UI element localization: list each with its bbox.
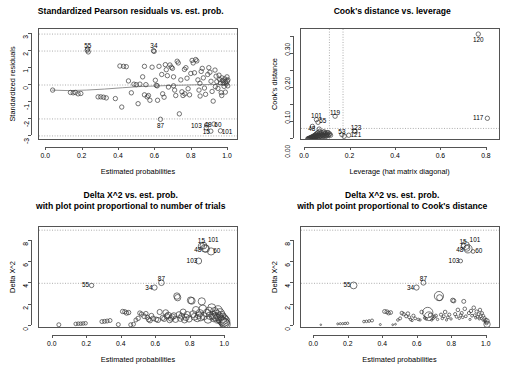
data-point (217, 73, 221, 77)
x-tick-label: 1.0 (473, 340, 499, 347)
panel-cooks-distance-leverage: Cook's distance vs. leverage120117101551… (262, 0, 523, 188)
x-tick-mark (224, 335, 225, 338)
panel-title-line: Delta X^2 vs. est. prob. (262, 190, 523, 201)
y-tick-label: -1 (23, 104, 30, 110)
y-axis-line (31, 33, 32, 135)
point-label: 87 (419, 275, 427, 282)
point-label: 101 (208, 236, 219, 243)
data-point (140, 75, 144, 79)
point-label: 34 (145, 284, 153, 291)
data-point (449, 318, 451, 320)
y-tick-label: 6 (23, 263, 30, 267)
data-point (478, 308, 481, 311)
x-tick-label: 0.6 (142, 340, 168, 347)
point-label: 103 (191, 122, 202, 129)
x-tick-label: 0.8 (473, 152, 499, 159)
data-point (455, 315, 458, 318)
data-point (150, 65, 154, 69)
x-tick-mark (440, 147, 441, 150)
diagnostic-plot-grid: Standardized Pearson residuals vs. est. … (0, 0, 523, 376)
data-point (362, 320, 365, 323)
data-point (341, 323, 343, 325)
data-point (209, 79, 213, 83)
panel-title-line: Delta X^2 vs. est. prob. (0, 190, 262, 201)
data-point (445, 319, 447, 321)
x-tick-label: 0.8 (438, 340, 464, 347)
y-axis-label: Delta X^2 (269, 261, 278, 293)
y-tick-label: 0 (23, 86, 30, 90)
loess-smoother (52, 84, 228, 90)
data-point (84, 321, 88, 325)
data-point (443, 310, 447, 314)
y-axis-label: Cook's distance (269, 58, 278, 110)
x-tick-label: 0.2 (337, 152, 363, 159)
y-tick-mark (290, 104, 293, 105)
x-tick-label: 0.0 (300, 340, 326, 347)
y-tick-mark (290, 138, 293, 139)
y-tick-mark (28, 325, 31, 326)
point-label: 117 (473, 114, 484, 121)
y-tick-label: 8 (284, 242, 291, 246)
point-label: 48 (308, 125, 316, 132)
point-label: 34 (150, 42, 158, 49)
panel-title-line: Cook's distance vs. leverage (262, 6, 523, 17)
data-point (57, 323, 61, 327)
x-tick-mark (350, 147, 351, 150)
data-point (195, 59, 199, 63)
point-label: 15 (203, 128, 211, 135)
data-point (79, 91, 83, 95)
x-tick-label: 0.4 (382, 152, 408, 159)
data-point (172, 88, 176, 92)
y-tick-label: 2 (23, 52, 30, 56)
y-tick-mark (290, 304, 293, 305)
x-axis-label: Estimated probabilities (38, 355, 238, 364)
plot-area: 553487103486015101 (38, 28, 238, 140)
data-point (458, 317, 460, 319)
point-label: 87 (157, 122, 165, 129)
data-point (186, 87, 190, 91)
y-tick-label: 0.00 (284, 145, 291, 158)
y-tick-label: 0 (23, 327, 30, 331)
y-tick-mark (290, 240, 293, 241)
y-tick-label: 0.10 (284, 111, 291, 124)
data-point (461, 316, 464, 319)
y-tick-mark (290, 325, 293, 326)
data-point (442, 315, 445, 318)
data-point (116, 323, 120, 327)
y-tick-label: 2 (23, 305, 30, 309)
x-tick-mark (155, 335, 156, 338)
y-tick-label: 8 (23, 242, 30, 246)
data-point (152, 285, 157, 290)
y-tick-mark (28, 304, 31, 305)
point-label: 53 (338, 128, 346, 135)
x-tick-label: 0.6 (427, 152, 453, 159)
data-point (126, 79, 130, 83)
point-label: 120 (472, 36, 483, 43)
x-axis-line (313, 335, 485, 336)
data-point (201, 76, 205, 80)
x-tick-mark (52, 335, 53, 338)
y-tick-label: -3 (23, 138, 30, 144)
point-label: 48 (194, 246, 202, 253)
data-point (428, 313, 432, 317)
data-point (210, 89, 214, 93)
point-label: 55 (84, 42, 92, 49)
point-label: 55 (343, 281, 351, 288)
data-point (171, 84, 175, 88)
data-point (120, 105, 124, 109)
y-axis-label: Standardized residuals (8, 46, 17, 121)
point-label: 55 (319, 117, 327, 124)
data-point (136, 101, 140, 105)
x-tick-mark (227, 147, 228, 150)
data-point (142, 64, 146, 68)
y-tick-label: 0.30 (284, 43, 291, 56)
x-tick-label: 0.6 (404, 340, 430, 347)
x-tick-mark (395, 147, 396, 150)
x-tick-mark (486, 335, 487, 338)
data-point (485, 116, 489, 120)
x-axis-line (45, 147, 227, 148)
x-tick-mark (86, 335, 87, 338)
data-point (461, 299, 465, 303)
data-point (170, 66, 174, 70)
y-tick-label: 4 (284, 284, 291, 288)
